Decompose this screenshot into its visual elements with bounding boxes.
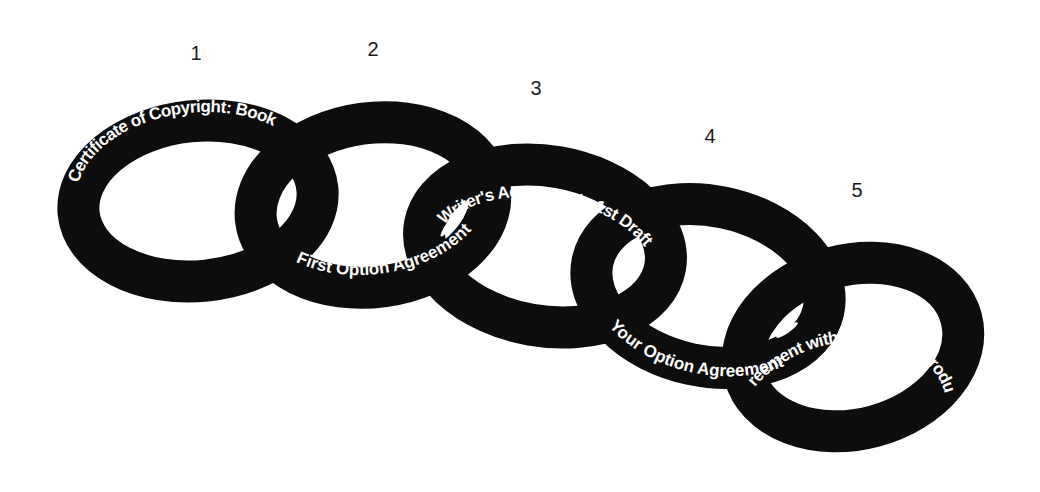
chain-diagram: 1 2 3 4 5 Certificate of Copyright: Book…: [0, 0, 1040, 492]
step-number-2: 2: [367, 38, 378, 60]
step-number-1: 1: [190, 42, 201, 64]
chain-link-5: [724, 239, 983, 455]
step-number-5: 5: [851, 179, 862, 201]
step-number-4: 4: [704, 125, 715, 147]
step-number-3: 3: [530, 77, 541, 99]
